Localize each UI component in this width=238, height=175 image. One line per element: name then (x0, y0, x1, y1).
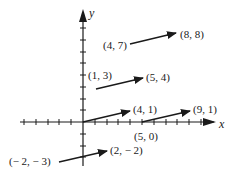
point-label-5-4: (5, 4) (146, 72, 170, 83)
point-label-1-3: (1, 3) (88, 70, 112, 81)
y-axis (79, 9, 87, 166)
point-label-2-neg2: (2, − 2) (110, 145, 143, 156)
x-axis-label: x (219, 118, 224, 130)
y-axis-arrow-icon (79, 9, 87, 22)
point-label-5-0: (5, 0) (134, 131, 158, 142)
x-axis-arrow-icon (203, 118, 216, 126)
point-label-9-1: (9, 1) (193, 104, 217, 115)
vector-diagram: y x (8, 8) (4, 7) (1, 3) (5, 4) (4, 1) (… (0, 0, 238, 175)
point-label-4-1: (4, 1) (133, 104, 157, 115)
vector-4-7-to-8-8 (130, 33, 176, 44)
x-axis (20, 118, 216, 126)
point-label-neg2-neg3: (− 2, − 3) (9, 156, 51, 167)
point-label-8-8: (8, 8) (180, 29, 204, 40)
y-axis-label: y (89, 7, 94, 19)
point-label-4-7: (4, 7) (103, 40, 127, 51)
